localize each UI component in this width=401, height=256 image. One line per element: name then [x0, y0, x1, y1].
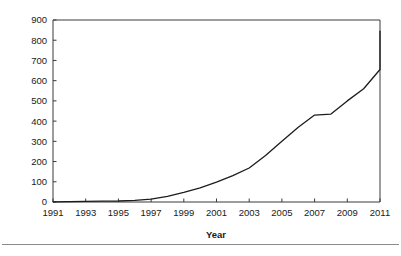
x-tick-label: 1991	[42, 207, 63, 218]
x-tick-label: 1999	[173, 207, 194, 218]
x-tick-label: 2005	[271, 207, 292, 218]
y-tick-label: 900	[31, 14, 47, 25]
data-line-series-0	[53, 31, 380, 202]
y-axis-tick-labels: 0100200300400500600700800900	[31, 14, 47, 207]
plot-frame	[53, 20, 380, 202]
y-tick-label: 600	[31, 75, 47, 86]
series-group	[53, 31, 380, 202]
line-chart-svg: 0100200300400500600700800900 19911993199…	[0, 0, 401, 256]
chart-figure: 0100200300400500600700800900 19911993199…	[0, 0, 401, 256]
y-tick-label: 300	[31, 136, 47, 147]
x-axis-title: Year	[206, 229, 226, 240]
y-tick-label: 700	[31, 55, 47, 66]
x-tick-label: 1993	[75, 207, 96, 218]
y-tick-label: 800	[31, 35, 47, 46]
y-tick-label: 500	[31, 95, 47, 106]
x-tick-label: 2003	[239, 207, 260, 218]
x-tick-label: 2001	[206, 207, 227, 218]
y-tick-label: 0	[42, 196, 47, 207]
x-tick-label: 2011	[370, 207, 390, 218]
x-tick-label: 1995	[108, 207, 129, 218]
x-tick-label: 1997	[141, 207, 162, 218]
y-tick-label: 100	[31, 176, 47, 187]
y-axis-ticks	[53, 20, 57, 202]
x-tick-label: 2009	[337, 207, 358, 218]
y-tick-label: 200	[31, 156, 47, 167]
x-tick-label: 2007	[304, 207, 325, 218]
y-tick-label: 400	[31, 116, 47, 127]
x-axis-tick-labels: 1991199319951997199920012003200520072009…	[42, 207, 390, 218]
